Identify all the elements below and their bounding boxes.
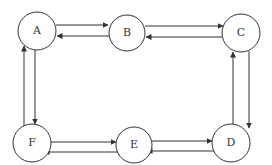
- node-label-f: F: [20, 135, 44, 151]
- directed-graph-diagram: A B C D E F: [0, 0, 272, 165]
- node-label-b: B: [115, 25, 139, 41]
- node-label-e: E: [122, 137, 146, 153]
- node-label-a: A: [25, 23, 49, 39]
- node-label-c: C: [229, 25, 253, 41]
- node-label-d: D: [219, 135, 243, 151]
